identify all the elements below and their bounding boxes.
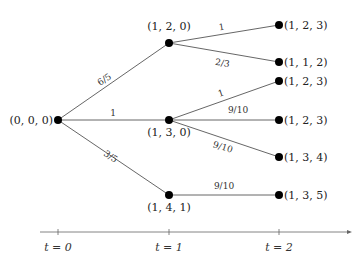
node-label-130: (1, 3, 0) <box>147 126 191 139</box>
edge-label-3-5: 3/5 <box>102 148 120 165</box>
edge-label-1: 1 <box>218 22 225 33</box>
node-dot <box>165 191 173 199</box>
node-label-leaf: (1, 3, 5) <box>284 189 328 202</box>
node-label-root: (0, 0, 0) <box>9 114 53 127</box>
edge-label-9-10: 9/10 <box>214 181 234 191</box>
edge-label-2-3: 2/3 <box>215 57 231 69</box>
tick-label-t0: t = 0 <box>44 241 72 254</box>
node-dot <box>165 116 173 124</box>
node-label-141: (1, 4, 1) <box>147 201 191 214</box>
node-dot <box>54 116 62 124</box>
edge-label-9-10: 9/10 <box>212 139 235 155</box>
node-dot <box>275 77 283 85</box>
node-label-leaf: (1, 3, 4) <box>284 151 328 164</box>
node-label-leaf: (1, 2, 3) <box>284 114 328 127</box>
edge-label-1: 1 <box>217 88 226 99</box>
tree-diagram: 6/5 1 3/5 1 2/3 1 9/10 9/10 9/10 (0, 0, … <box>0 0 362 266</box>
node-dot <box>275 116 283 124</box>
edge-label-1: 1 <box>110 108 116 118</box>
node-dot <box>275 153 283 161</box>
node-dot <box>275 58 283 66</box>
node-label-leaf: (1, 1, 2) <box>284 56 328 69</box>
node-dot <box>275 191 283 199</box>
edge-label-9-10: 9/10 <box>228 105 248 115</box>
tick-label-t2: t = 2 <box>265 241 293 254</box>
tick-label-t1: t = 1 <box>155 241 183 254</box>
arrow-right-icon <box>347 230 352 234</box>
node-label-leaf: (1, 2, 3) <box>284 75 328 88</box>
node-label-120: (1, 2, 0) <box>147 20 191 33</box>
node-dot <box>165 39 173 47</box>
edge-label-6-5: 6/5 <box>96 71 114 88</box>
edge-130-to-123a <box>169 81 279 120</box>
node-dot <box>275 21 283 29</box>
node-label-leaf: (1, 2, 3) <box>284 19 328 32</box>
